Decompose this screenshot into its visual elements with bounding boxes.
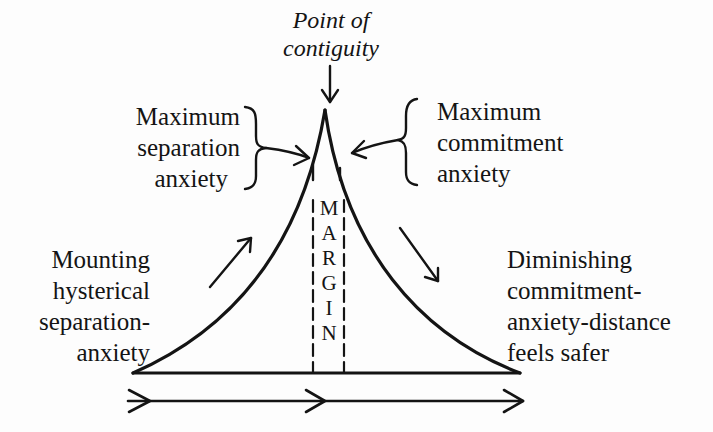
rising-arrow-shaft [210,238,251,287]
maximum-commitment-anxiety-label: Maximum commitment anxiety [437,96,637,189]
label-line: Maximum [437,96,637,127]
falling-arrow-shaft [400,228,438,281]
margin-letter: N [314,321,344,346]
label-line: anxiety [60,163,240,194]
margin-letter: M [314,196,344,221]
margin-letter: R [314,246,344,271]
label-line: contiguity [270,34,392,62]
label-line: anxiety-distance [507,306,713,337]
margin-letter: G [314,271,344,296]
left-brace [245,107,266,189]
label-line: Maximum [60,101,240,132]
label-line: anxiety [0,337,150,368]
right-brace [398,99,417,185]
margin-label: M A R G I N [314,196,344,346]
label-line: anxiety [437,158,637,189]
label-line: separation [60,132,240,163]
mounting-separation-anxiety-label: Mounting hysterical separation- anxiety [0,244,150,368]
label-line: commitment- [507,275,713,306]
label-line: separation- [0,306,150,337]
label-line: Diminishing [507,244,713,275]
label-line: feels safer [507,337,713,368]
diminishing-commitment-anxiety-label: Diminishing commitment- anxiety-distance… [507,244,713,368]
label-line: Point of [270,6,392,34]
margin-letter: I [314,296,344,321]
label-line: commitment [437,127,637,158]
diagram-canvas: Point of contiguity Maximum separation a… [0,0,713,432]
maximum-separation-anxiety-label: Maximum separation anxiety [60,101,240,194]
label-line: Mounting [0,244,150,275]
label-line: hysterical [0,275,150,306]
point-of-contiguity-label: Point of contiguity [270,6,392,62]
margin-letter: A [314,221,344,246]
